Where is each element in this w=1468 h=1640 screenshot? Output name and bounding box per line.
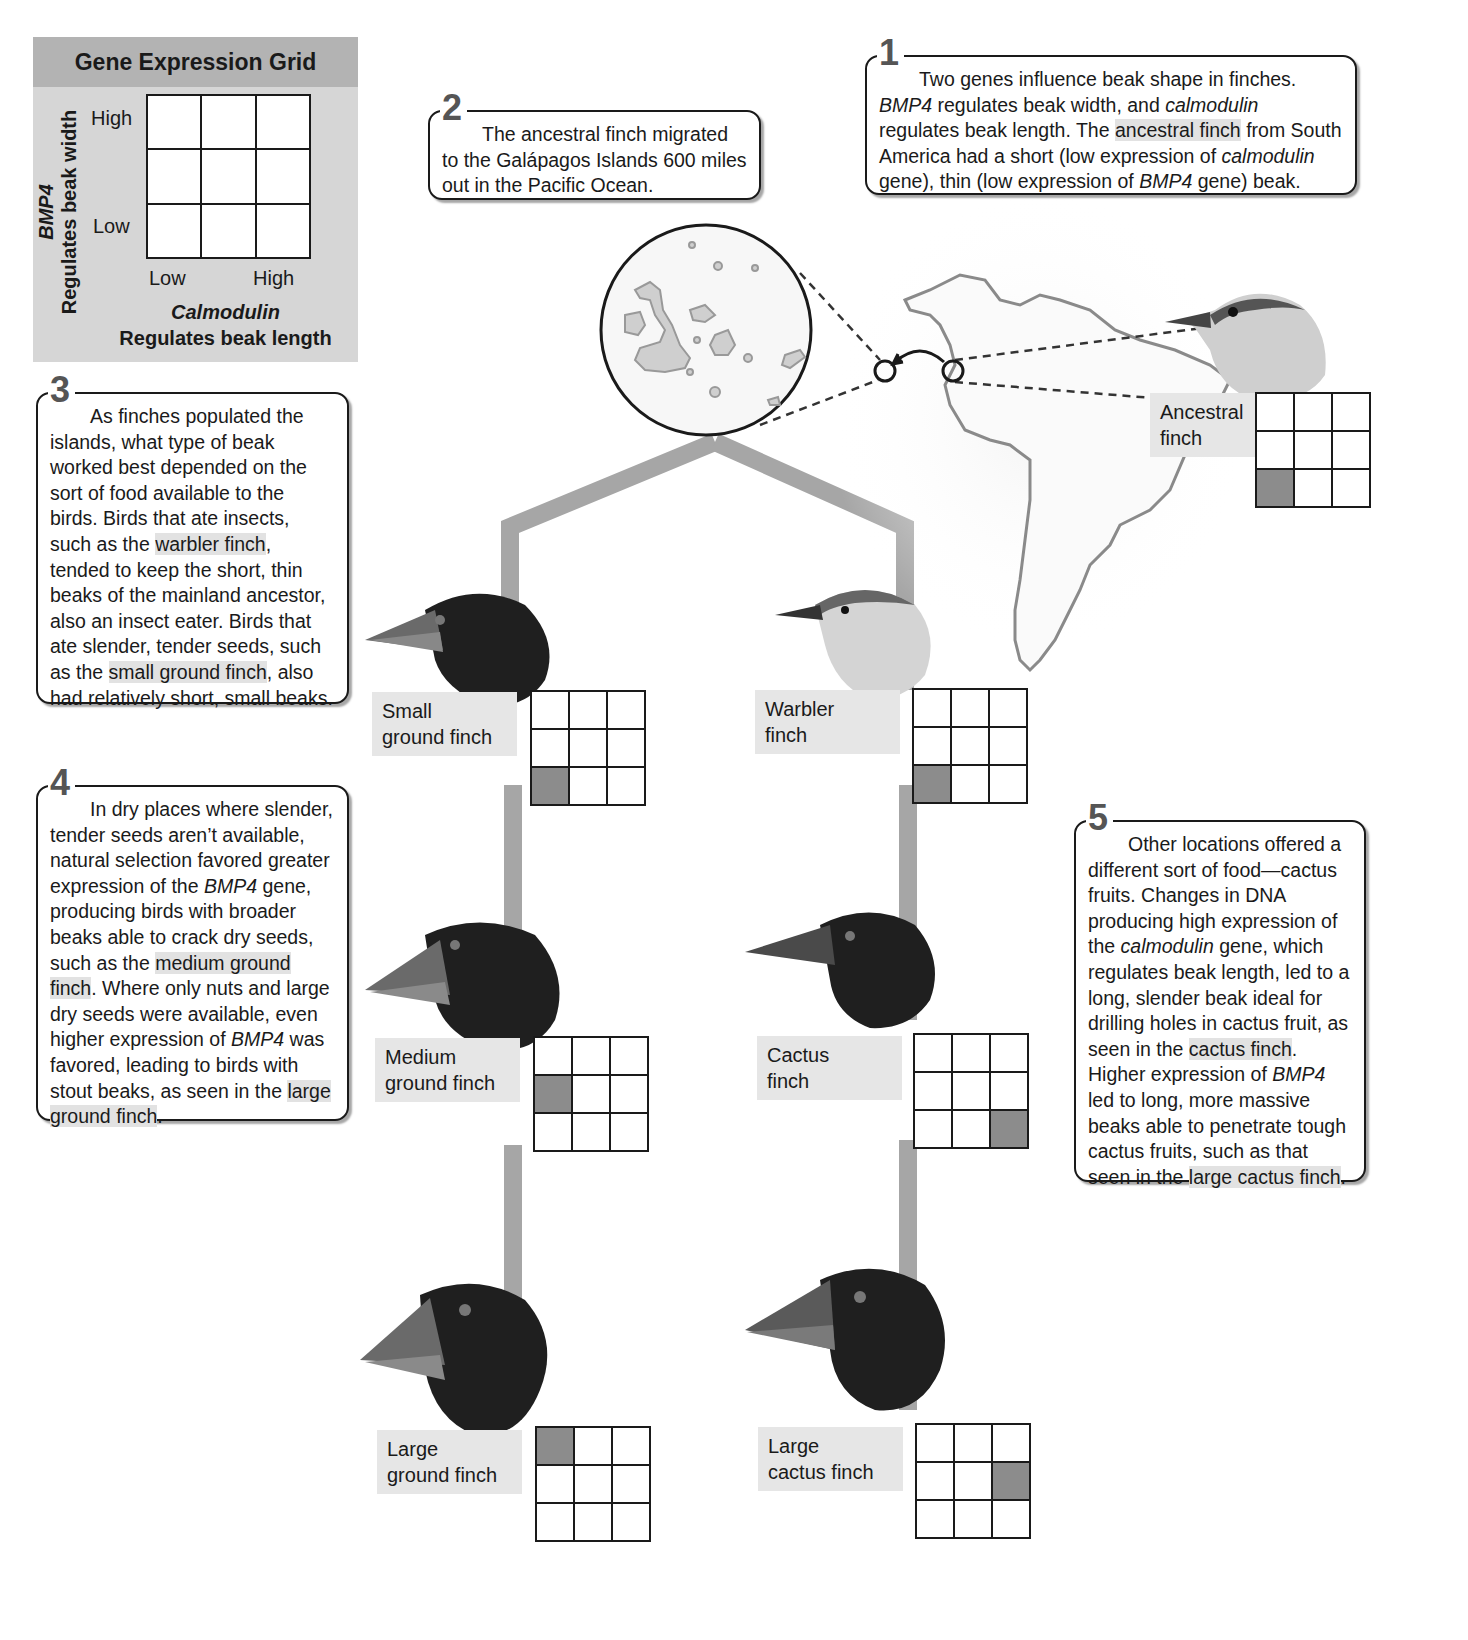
- grid-cell: [611, 1076, 647, 1112]
- grid-cell: [1333, 432, 1369, 468]
- grid-cell: [914, 728, 950, 764]
- grid-cell: [915, 1111, 951, 1147]
- callout-5: 5 Other locations offered a different so…: [1074, 820, 1366, 1182]
- grid-cell-shaded: [991, 1111, 1027, 1147]
- grid-cell: [611, 1038, 647, 1074]
- grid-cell: [575, 1504, 611, 1540]
- ancestral-finch-illustration: [1165, 280, 1335, 410]
- grid-cell: [955, 1425, 991, 1461]
- grid-cell: [573, 1076, 609, 1112]
- grid-cell: [953, 1035, 989, 1071]
- callout-3: 3 As finches populated the islands, what…: [36, 392, 349, 704]
- x-axis-gene: Calmodulin: [93, 299, 358, 325]
- highlight-warbler-finch: warbler finch: [155, 533, 266, 555]
- grid-cell-shaded: [537, 1428, 573, 1464]
- cactus-finch-illustration: [745, 900, 945, 1035]
- highlight-cactus-finch: cactus finch: [1189, 1038, 1292, 1060]
- expression-grid-warbler: [912, 688, 1028, 804]
- grid-cell: [575, 1428, 611, 1464]
- highlight-large-cactus-finch: large cactus finch: [1189, 1166, 1341, 1188]
- grid-cell: [917, 1463, 953, 1499]
- highlight-small-ground-finch: small ground finch: [109, 661, 267, 683]
- grid-cell: [573, 1114, 609, 1150]
- grid-cell: [575, 1466, 611, 1502]
- finch-label-cactus: Cactus finch: [757, 1036, 902, 1100]
- expression-grid-large-ground: [535, 1426, 651, 1542]
- grid-cell: [915, 1073, 951, 1109]
- grid-cell-shaded: [532, 768, 568, 804]
- grid-cell: [532, 692, 568, 728]
- grid-cell-shaded: [914, 766, 950, 802]
- expression-grid-medium-ground: [533, 1036, 649, 1152]
- grid-cell: [914, 690, 950, 726]
- grid-cell: [611, 1114, 647, 1150]
- grid-cell: [573, 1038, 609, 1074]
- y-axis-desc: Regulates beak width: [58, 110, 80, 315]
- grid-cell: [1333, 394, 1369, 430]
- legend-title: Gene Expression Grid: [33, 37, 358, 87]
- grid-cell: [613, 1428, 649, 1464]
- grid-cell: [917, 1425, 953, 1461]
- grid-cell: [991, 1035, 1027, 1071]
- grid-cell: [1295, 432, 1331, 468]
- y-axis-gene: BMP4: [35, 97, 58, 327]
- grid-cell: [953, 1111, 989, 1147]
- finch-label-ancestral: Ancestral finch: [1150, 393, 1255, 457]
- legend-x-axis: Calmodulin Regulates beak length: [93, 299, 358, 351]
- grid-cell: [535, 1038, 571, 1074]
- finch-label-large-ground: Large ground finch: [377, 1430, 522, 1494]
- callout-number: 1: [877, 35, 904, 71]
- grid-cell: [570, 692, 606, 728]
- finch-label-large-cactus: Large cactus finch: [758, 1427, 903, 1491]
- grid-cell: [990, 690, 1026, 726]
- expression-grid-ancestral: [1255, 392, 1371, 508]
- legend-y-axis: BMP4 Regulates beak width: [35, 97, 81, 327]
- finch-label-warbler: Warbler finch: [755, 690, 900, 754]
- grid-cell: [990, 728, 1026, 764]
- large-cactus-finch-illustration: [745, 1255, 955, 1420]
- warbler-finch-illustration: [775, 575, 945, 705]
- finch-label-medium-ground: Medium ground finch: [375, 1038, 520, 1102]
- grid-cell: [1257, 432, 1293, 468]
- grid-cell: [570, 730, 606, 766]
- grid-cell: [952, 766, 988, 802]
- legend-col-high: High: [253, 267, 294, 290]
- grid-cell-shaded: [993, 1463, 1029, 1499]
- grid-cell: [532, 730, 568, 766]
- grid-cell: [608, 768, 644, 804]
- grid-cell: [1333, 470, 1369, 506]
- grid-cell: [990, 766, 1026, 802]
- grid-cell: [608, 730, 644, 766]
- grid-cell: [955, 1501, 991, 1537]
- grid-cell: [991, 1073, 1027, 1109]
- callout-number: 2: [440, 90, 467, 126]
- grid-cell-shaded: [1257, 470, 1293, 506]
- callout-2: 2 The ancestral finch migrated to the Ga…: [428, 110, 761, 200]
- grid-cell: [993, 1425, 1029, 1461]
- callout-number: 3: [48, 372, 75, 408]
- grid-cell: [537, 1504, 573, 1540]
- legend-row-low: Low: [93, 215, 130, 238]
- grid-cell: [953, 1073, 989, 1109]
- grid-cell: [535, 1114, 571, 1150]
- expression-grid-small-ground: [530, 690, 646, 806]
- callout-number: 4: [48, 765, 75, 801]
- grid-cell: [917, 1501, 953, 1537]
- grid-cell: [955, 1463, 991, 1499]
- callout-4: 4 In dry places where slender, tender se…: [36, 785, 349, 1121]
- legend-col-low: Low: [149, 267, 186, 290]
- callout-number: 5: [1086, 800, 1113, 836]
- grid-cell: [613, 1466, 649, 1502]
- large-ground-finch-illustration: [360, 1270, 560, 1445]
- highlight-ancestral-finch: ancestral finch: [1115, 119, 1241, 141]
- grid-cell-shaded: [535, 1076, 571, 1112]
- grid-cell: [570, 768, 606, 804]
- grid-cell: [1257, 394, 1293, 430]
- expression-grid-cactus: [913, 1033, 1029, 1149]
- legend-grid: [146, 94, 311, 259]
- grid-cell: [613, 1504, 649, 1540]
- callout-1: 1 Two genes influence beak shape in finc…: [865, 55, 1357, 195]
- grid-cell: [952, 690, 988, 726]
- grid-cell: [608, 692, 644, 728]
- galapagos-islands-map: [601, 225, 811, 435]
